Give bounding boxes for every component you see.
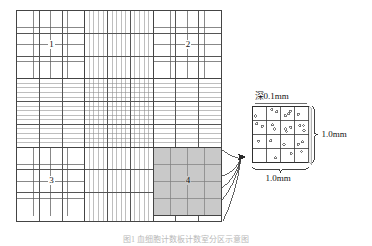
quadrant-label-2: 2 xyxy=(185,40,192,49)
width-dimension-label: 1.0mm xyxy=(266,174,291,183)
enlarged-corner-square xyxy=(253,107,312,166)
figure-caption: 图1 血细胞计数板计数室分区示意图 xyxy=(0,233,372,244)
quadrant-label-3: 3 xyxy=(48,176,55,185)
height-dimension-label: 1.0mm xyxy=(322,130,347,139)
magnify-leader-lines xyxy=(222,150,246,221)
depth-label: 深0.1mm xyxy=(255,92,289,101)
quadrant-label-1: 1 xyxy=(48,40,55,49)
quadrant-label-4: 4 xyxy=(185,176,192,185)
